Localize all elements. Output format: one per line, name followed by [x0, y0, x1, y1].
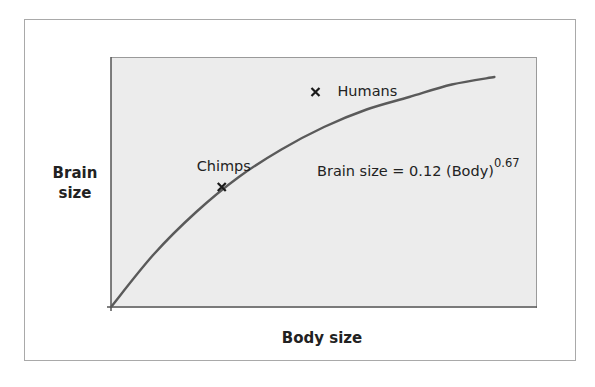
label-chimps: Chimps — [197, 158, 251, 174]
label-humans: Humans — [337, 83, 397, 99]
equation-label: Brain size = 0.12 (Body)0.67 — [317, 156, 520, 179]
y-axis-title-line-1: Brain — [53, 164, 98, 182]
chart: ChimpsHumans Brain size = 0.12 (Body)0.6… — [0, 0, 595, 387]
power-law-curve — [111, 77, 494, 307]
x-axis-title: Body size — [282, 329, 362, 347]
marker-humans — [311, 88, 319, 96]
y-axis-title-line-2: size — [59, 184, 92, 202]
equation-exponent: 0.67 — [494, 156, 520, 170]
